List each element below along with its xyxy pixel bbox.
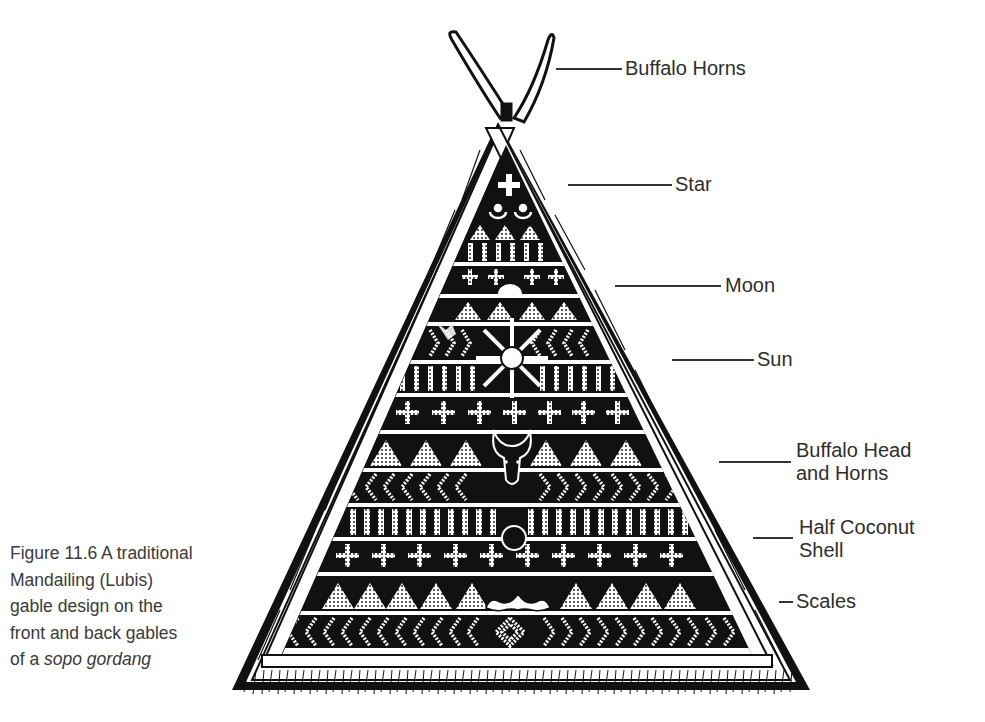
label-buffalo-head: Buffalo Head and Horns	[796, 439, 911, 485]
gable-diagram: Buffalo Horns Star Moon Sun Buffalo Head…	[0, 0, 985, 722]
sun-icon	[476, 318, 548, 398]
label-half-coconut-line2: Shell	[799, 539, 915, 562]
leader-star	[568, 184, 672, 186]
caption-line-1: Figure 11.6 A traditional	[10, 540, 260, 567]
leader-buffalo-horns	[556, 68, 622, 70]
label-half-coconut-line1: Half Coconut	[799, 516, 915, 539]
figure-caption: Figure 11.6 A traditional Mandailing (Lu…	[10, 540, 260, 673]
ornament-field	[260, 140, 780, 660]
label-scales: Scales	[796, 590, 856, 613]
caption-line-5-prefix: of a	[10, 649, 44, 669]
caption-line-4: front and back gables	[10, 620, 260, 647]
caption-line-3: gable design on the	[10, 593, 260, 620]
label-half-coconut: Half Coconut Shell	[799, 516, 915, 562]
label-star: Star	[675, 173, 712, 196]
caption-line-2: Mandailing (Lubis)	[10, 567, 260, 594]
label-sun: Sun	[757, 348, 793, 371]
caption-term: sopo gordang	[44, 649, 151, 669]
leader-scales	[779, 601, 793, 603]
label-buffalo-head-line1: Buffalo Head	[796, 439, 911, 462]
leader-buffalo-head	[719, 461, 791, 463]
coconut-shell-icon	[502, 526, 526, 550]
leader-sun	[672, 359, 754, 361]
label-moon: Moon	[725, 274, 775, 297]
caption-line-5: of a sopo gordang	[10, 646, 260, 673]
label-buffalo-horns: Buffalo Horns	[625, 57, 746, 80]
buffalo-horns-icon	[450, 32, 554, 122]
label-buffalo-head-line2: and Horns	[796, 462, 911, 485]
leader-half-coconut	[753, 537, 793, 539]
leader-moon	[615, 285, 721, 287]
